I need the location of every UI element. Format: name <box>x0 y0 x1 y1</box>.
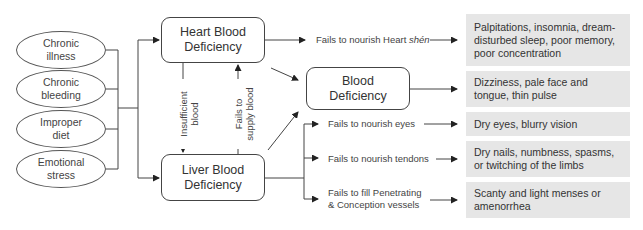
label-text: Fails to nourish Heart <box>316 34 409 45</box>
symptom-text: Dry eyes, blurry vision <box>474 118 577 131</box>
symptom-blood: Dizziness, pale face and tongue, thin pu… <box>466 71 630 107</box>
cause-emotional-stress: Emotionalstress <box>16 150 106 188</box>
cause-label: Chronic <box>43 76 79 88</box>
pathway-heart-shen: Fails to nourish Heart shén <box>316 34 430 46</box>
node-liver-blood-deficiency: Liver BloodDeficiency <box>161 154 265 201</box>
cause-label: Improper <box>40 116 82 128</box>
cause-label: stress <box>47 169 75 181</box>
symptom-tendons: Dry nails, numbness, spasms, or twitchin… <box>466 141 630 177</box>
label-text: Fails to fill Penetrating <box>328 187 421 198</box>
cause-label: Chronic <box>43 37 79 49</box>
node-label: Blood <box>342 74 374 88</box>
symptom-menses: Scanty and light menses or amenorrhea <box>466 182 630 218</box>
cause-label: bleeding <box>41 89 81 101</box>
cause-chronic-illness: Chronicillness <box>16 31 106 69</box>
cause-label: Emotional <box>38 156 85 168</box>
node-label: Liver Blood <box>182 163 245 177</box>
cause-label: illness <box>46 50 75 62</box>
label-text: Insufficient <box>178 91 189 136</box>
label-fails-to-supply-blood: Fails tosupply blood <box>233 79 257 149</box>
label-text: & Conception vessels <box>328 199 419 210</box>
pathway-tendons: Fails to nourish tendons <box>328 153 429 165</box>
symptom-eyes: Dry eyes, blurry vision <box>466 112 630 136</box>
label-text: supply blood <box>244 87 255 140</box>
label-text: Fails to <box>233 99 244 130</box>
symptom-text: Dizziness, pale face and tongue, thin pu… <box>474 76 622 102</box>
node-label: Deficiency <box>184 40 242 54</box>
symptom-text: Palpitations, insomnia, dream-disturbed … <box>474 21 622 60</box>
node-label: Deficiency <box>184 178 242 192</box>
symptom-heart: Palpitations, insomnia, dream-disturbed … <box>466 14 630 66</box>
pathway-eyes: Fails to nourish eyes <box>328 118 415 130</box>
symptom-text: Dry nails, numbness, spasms, or twitchin… <box>474 146 622 172</box>
pathway-vessels: Fails to fill Penetrating& Conception ve… <box>328 187 421 211</box>
label-insufficient-blood: Insufficientblood <box>178 79 202 149</box>
node-heart-blood-deficiency: Heart BloodDeficiency <box>161 17 265 63</box>
node-label: Heart Blood <box>180 25 246 39</box>
symptom-text: Scanty and light menses or amenorrhea <box>474 187 622 213</box>
node-blood-deficiency: BloodDeficiency <box>306 67 410 110</box>
cause-chronic-bleeding: Chronicbleeding <box>16 70 106 108</box>
node-label: Deficiency <box>329 89 387 103</box>
label-italic: shén <box>409 34 430 45</box>
label-text: blood <box>189 102 200 125</box>
cause-label: diet <box>53 129 70 141</box>
cause-improper-diet: Improperdiet <box>16 110 106 148</box>
